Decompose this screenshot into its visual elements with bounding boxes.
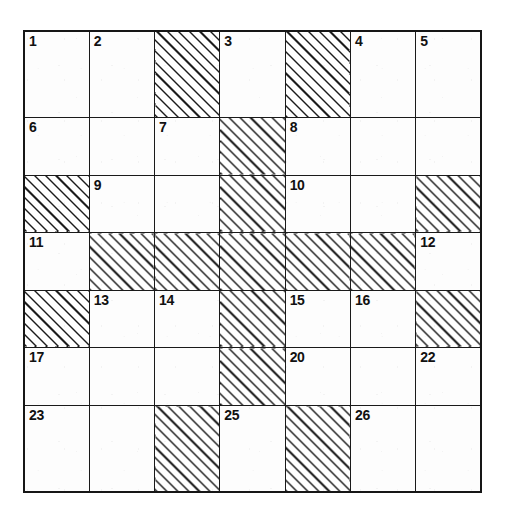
crossword-row: 172022 bbox=[24, 348, 481, 406]
cell-number: 13 bbox=[94, 292, 109, 308]
open-cell[interactable]: 26 bbox=[350, 406, 415, 492]
blocked-cell bbox=[155, 406, 220, 492]
blocked-cell bbox=[416, 290, 481, 348]
open-cell[interactable]: 13 bbox=[89, 290, 154, 348]
open-cell[interactable]: 3 bbox=[220, 31, 285, 117]
cell-number: 3 bbox=[224, 33, 232, 49]
open-cell[interactable]: 12 bbox=[416, 233, 481, 291]
open-cell[interactable] bbox=[416, 117, 481, 175]
cell-number: 6 bbox=[29, 119, 37, 135]
open-cell[interactable]: 14 bbox=[155, 290, 220, 348]
open-cell[interactable]: 1 bbox=[24, 31, 89, 117]
crossword-row: 1112 bbox=[24, 233, 481, 291]
cell-number: 5 bbox=[420, 33, 428, 49]
blocked-cell bbox=[220, 348, 285, 406]
open-cell[interactable] bbox=[89, 117, 154, 175]
open-cell[interactable]: 16 bbox=[350, 290, 415, 348]
blocked-cell bbox=[220, 117, 285, 175]
blocked-cell bbox=[350, 233, 415, 291]
cell-number: 22 bbox=[420, 349, 435, 365]
blocked-cell bbox=[24, 290, 89, 348]
open-cell[interactable]: 10 bbox=[285, 175, 350, 233]
blocked-cell bbox=[416, 175, 481, 233]
blocked-cell bbox=[155, 31, 220, 117]
open-cell[interactable]: 17 bbox=[24, 348, 89, 406]
open-cell[interactable]: 22 bbox=[416, 348, 481, 406]
blocked-cell bbox=[285, 31, 350, 117]
crossword-row: 232526 bbox=[24, 406, 481, 492]
cell-number: 15 bbox=[290, 292, 305, 308]
cell-number: 11 bbox=[29, 234, 43, 250]
open-cell[interactable]: 7 bbox=[155, 117, 220, 175]
open-cell[interactable] bbox=[89, 406, 154, 492]
cell-number: 12 bbox=[420, 234, 435, 250]
crossword-row: 678 bbox=[24, 117, 481, 175]
blocked-cell bbox=[285, 406, 350, 492]
open-cell[interactable] bbox=[89, 348, 154, 406]
blocked-cell bbox=[24, 175, 89, 233]
cell-number: 20 bbox=[290, 349, 305, 365]
cell-number: 2 bbox=[94, 33, 102, 49]
cell-number: 16 bbox=[355, 292, 370, 308]
blocked-cell bbox=[220, 175, 285, 233]
open-cell[interactable] bbox=[155, 348, 220, 406]
crossword-row: 910 bbox=[24, 175, 481, 233]
cell-number: 25 bbox=[224, 407, 239, 423]
cell-number: 7 bbox=[159, 119, 167, 135]
open-cell[interactable]: 8 bbox=[285, 117, 350, 175]
open-cell[interactable] bbox=[350, 175, 415, 233]
open-cell[interactable]: 5 bbox=[416, 31, 481, 117]
open-cell[interactable]: 23 bbox=[24, 406, 89, 492]
open-cell[interactable] bbox=[350, 348, 415, 406]
blocked-cell bbox=[285, 233, 350, 291]
crossword-row: 13141516 bbox=[24, 290, 481, 348]
cell-number: 14 bbox=[159, 292, 174, 308]
cell-number: 10 bbox=[290, 177, 305, 193]
crossword-grid[interactable]: 12345678910111213141516172022232526 bbox=[23, 30, 482, 493]
cell-number: 17 bbox=[29, 349, 44, 365]
blocked-cell bbox=[220, 290, 285, 348]
open-cell[interactable]: 2 bbox=[89, 31, 154, 117]
cell-number: 1 bbox=[29, 33, 37, 49]
open-cell[interactable]: 20 bbox=[285, 348, 350, 406]
open-cell[interactable]: 25 bbox=[220, 406, 285, 492]
open-cell[interactable]: 11 bbox=[24, 233, 89, 291]
cell-number: 9 bbox=[94, 177, 102, 193]
cell-number: 23 bbox=[29, 407, 44, 423]
blocked-cell bbox=[220, 233, 285, 291]
open-cell[interactable]: 4 bbox=[350, 31, 415, 117]
blocked-cell bbox=[155, 233, 220, 291]
open-cell[interactable]: 15 bbox=[285, 290, 350, 348]
crossword-puzzle: 12345678910111213141516172022232526 bbox=[23, 30, 482, 493]
cell-number: 4 bbox=[355, 33, 363, 49]
open-cell[interactable] bbox=[155, 175, 220, 233]
crossword-row: 12345 bbox=[24, 31, 481, 117]
crossword-grid-body: 12345678910111213141516172022232526 bbox=[24, 31, 481, 492]
open-cell[interactable]: 6 bbox=[24, 117, 89, 175]
cell-number: 8 bbox=[290, 119, 298, 135]
open-cell[interactable]: 9 bbox=[89, 175, 154, 233]
blocked-cell bbox=[89, 233, 154, 291]
cell-number: 26 bbox=[355, 407, 370, 423]
open-cell[interactable] bbox=[416, 406, 481, 492]
open-cell[interactable] bbox=[350, 117, 415, 175]
